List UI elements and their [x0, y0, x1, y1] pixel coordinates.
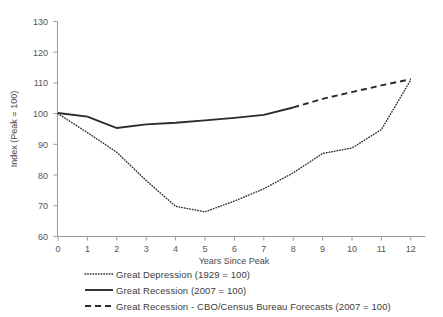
legend-item-forecast: Great Recession - CBO/Census Bureau Fore… [84, 298, 440, 314]
y-tick-label-100: 100 [33, 109, 48, 119]
series-line-great-depression [58, 80, 411, 212]
series-line-great-recession [58, 107, 293, 128]
y-tick-label-80: 80 [38, 171, 48, 181]
legend-label-great-depression: Great Depression (1929 = 100) [114, 269, 250, 280]
y-axis-ticks [54, 22, 58, 237]
x-axis-title: Years Since Peak [199, 256, 270, 266]
x-tick-label-3: 3 [144, 244, 149, 254]
x-tick-label-10: 10 [347, 244, 357, 254]
y-tick-label-120: 120 [33, 48, 48, 58]
y-tick-label-70: 70 [38, 201, 48, 211]
x-tick-label-2: 2 [114, 244, 119, 254]
x-tick-label-4: 4 [173, 244, 178, 254]
x-tick-label-1: 1 [85, 244, 90, 254]
y-tick-label-110: 110 [34, 78, 48, 88]
legend-label-forecast: Great Recession - CBO/Census Bureau Fore… [114, 301, 391, 312]
x-tick-label-7: 7 [261, 244, 266, 254]
legend-item-great-recession: Great Recession (2007 = 100) [84, 282, 440, 298]
x-tick-label-0: 0 [55, 244, 60, 254]
x-axis-ticks [58, 237, 411, 241]
y-axis-title: Index (Peak = 100) [9, 91, 19, 167]
x-tick-label-11: 11 [377, 244, 386, 254]
x-tick-label-6: 6 [232, 244, 237, 254]
x-tick-label-9: 9 [320, 244, 325, 254]
legend-swatch-solid-icon [84, 284, 114, 296]
chart-legend: Great Depression (1929 = 100) Great Rece… [84, 266, 440, 314]
x-tick-label-12: 12 [406, 244, 416, 254]
legend-item-great-depression: Great Depression (1929 = 100) [84, 266, 440, 282]
chart-figure: 130 120 110 100 90 80 70 60 0 1 2 3 4 5 … [0, 0, 443, 317]
y-tick-label-90: 90 [38, 140, 48, 150]
y-tick-label-60: 60 [38, 232, 48, 242]
legend-swatch-dotted-icon [84, 268, 114, 280]
y-tick-label-130: 130 [33, 17, 48, 27]
legend-label-great-recession: Great Recession (2007 = 100) [114, 285, 246, 296]
legend-swatch-dashed-icon [84, 300, 114, 312]
series-line-forecast [293, 79, 411, 107]
x-tick-label-5: 5 [202, 244, 207, 254]
x-tick-label-8: 8 [291, 244, 296, 254]
